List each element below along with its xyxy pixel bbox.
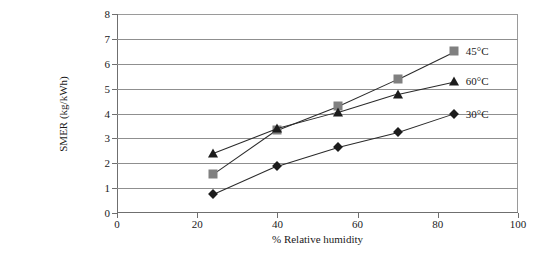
y-tick-6 [112,64,117,65]
series-label-30C: 30°C [466,108,489,119]
gridline-y-1 [117,188,518,189]
plot-area: 01234567802040608010045°C60°C30°C [117,14,518,213]
y-tick-4 [112,114,117,115]
data-point-marker [208,149,218,158]
y-tick-1 [112,188,117,189]
y-tick-5 [112,89,117,90]
data-point-marker [209,170,218,179]
data-point-marker [393,74,402,83]
y-tick-label-5: 5 [105,83,111,94]
y-axis-title-wrapper: SMER (kg/kWh) [34,14,54,213]
chart-container: SMER (kg/kWh) % Relative humidity 012345… [0,0,541,255]
gridline-y-6 [117,64,518,65]
y-tick-8 [112,14,117,15]
y-tick-label-4: 4 [105,108,111,119]
y-tick-2 [112,163,117,164]
y-tick-label-3: 3 [105,133,111,144]
x-tick-label-80: 80 [432,219,443,230]
y-tick-label-2: 2 [105,158,111,169]
series-line-60C [338,94,398,114]
series-line-45C [277,106,338,131]
gridline-y-3 [117,138,518,139]
x-tick-label-40: 40 [272,219,283,230]
data-point-marker [393,127,403,137]
x-axis-line [117,212,518,213]
data-point-marker [333,142,343,152]
y-tick-label-6: 6 [105,58,111,69]
series-line-30C [338,132,398,148]
gridline-y-5 [117,89,518,90]
y-tick-3 [112,138,117,139]
y-axis-title: SMER (kg/kWh) [57,39,69,189]
gridline-y-2 [117,163,518,164]
data-point-marker [333,108,343,117]
series-line-30C [213,166,278,196]
series-label-60C: 60°C [466,76,489,87]
series-line-45C [398,51,455,79]
y-tick-7 [112,39,117,40]
data-point-marker [272,124,282,133]
y-tick-label-0: 0 [105,208,111,219]
data-point-marker [449,109,459,119]
series-line-30C [398,114,454,134]
x-tick-label-0: 0 [114,219,120,230]
y-tick-label-1: 1 [105,183,111,194]
x-axis-title: % Relative humidity [117,233,518,245]
series-label-45C: 45°C [466,46,489,57]
data-point-marker [449,47,458,56]
data-point-marker [449,77,459,86]
x-tick-label-60: 60 [352,219,363,230]
y-tick-label-7: 7 [105,33,111,44]
x-tick-label-100: 100 [510,219,527,230]
x-tick-label-20: 20 [192,219,203,230]
data-point-marker [208,189,218,199]
y-tick-label-8: 8 [105,9,111,20]
gridline-y-7 [117,39,518,40]
data-point-marker [393,89,403,98]
plot-border-top [117,14,518,15]
